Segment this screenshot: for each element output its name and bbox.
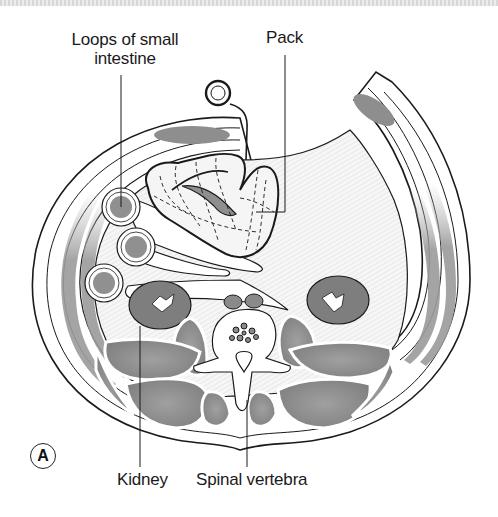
intestine-loop-2 — [117, 228, 155, 266]
label-loops-line1: Loops of small — [60, 30, 190, 49]
label-spinal-vertebra: Spinal vertebra — [196, 470, 307, 489]
ivc — [224, 295, 242, 309]
label-pack: Pack — [266, 28, 303, 47]
label-kidney: Kidney — [117, 470, 168, 489]
left-rectus-muscle — [154, 126, 230, 144]
label-loops-of-small-intestine: Loops of small intestine — [60, 30, 190, 68]
panel-label-badge: A — [30, 443, 56, 469]
aorta — [245, 294, 263, 308]
intestine-loop-3 — [85, 264, 123, 302]
label-loops-line2: intestine — [60, 49, 190, 68]
abdomen-cross-section-diagram — [0, 0, 498, 517]
right-kidney — [307, 276, 369, 324]
